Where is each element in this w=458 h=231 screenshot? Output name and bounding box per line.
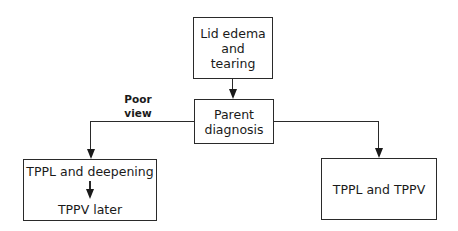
node-text: TPPL and TPPV: [333, 182, 425, 197]
arrowhead-icon: [229, 89, 237, 99]
connector-diagnosis-to-left-vertical: [90, 121, 91, 150]
edge-label-line: view: [118, 106, 158, 120]
arrowhead-icon: [375, 148, 383, 158]
node-lid-edema-tearing: Lid edema and tearing: [193, 17, 273, 79]
connector-diagnosis-to-left-horizontal: [90, 121, 194, 122]
connector-diagnosis-to-right-vertical: [378, 121, 379, 149]
arrowhead-icon: [87, 149, 95, 159]
edge-label-poor-view: Poor view: [118, 92, 158, 120]
node-text-line: Lid edema: [200, 26, 266, 41]
node-parent-diagnosis: Parent diagnosis: [194, 99, 274, 144]
edge-label-line: Poor: [118, 92, 158, 106]
node-text-line: Parent: [214, 107, 254, 122]
node-text-top: TPPL and deepening: [26, 164, 153, 179]
node-text-line: tearing: [211, 56, 256, 71]
connector-diagnosis-to-right-horizontal: [274, 121, 379, 122]
node-tppl-and-tppv: TPPL and TPPV: [321, 158, 437, 220]
node-text-line: and: [221, 41, 245, 56]
node-text-line: diagnosis: [204, 122, 263, 137]
inner-arrow-icon: [86, 181, 94, 199]
node-tppl-deepening-tppv-later: TPPL and deepening TPPV later: [23, 159, 157, 221]
node-text-bottom: TPPV later: [58, 202, 122, 217]
